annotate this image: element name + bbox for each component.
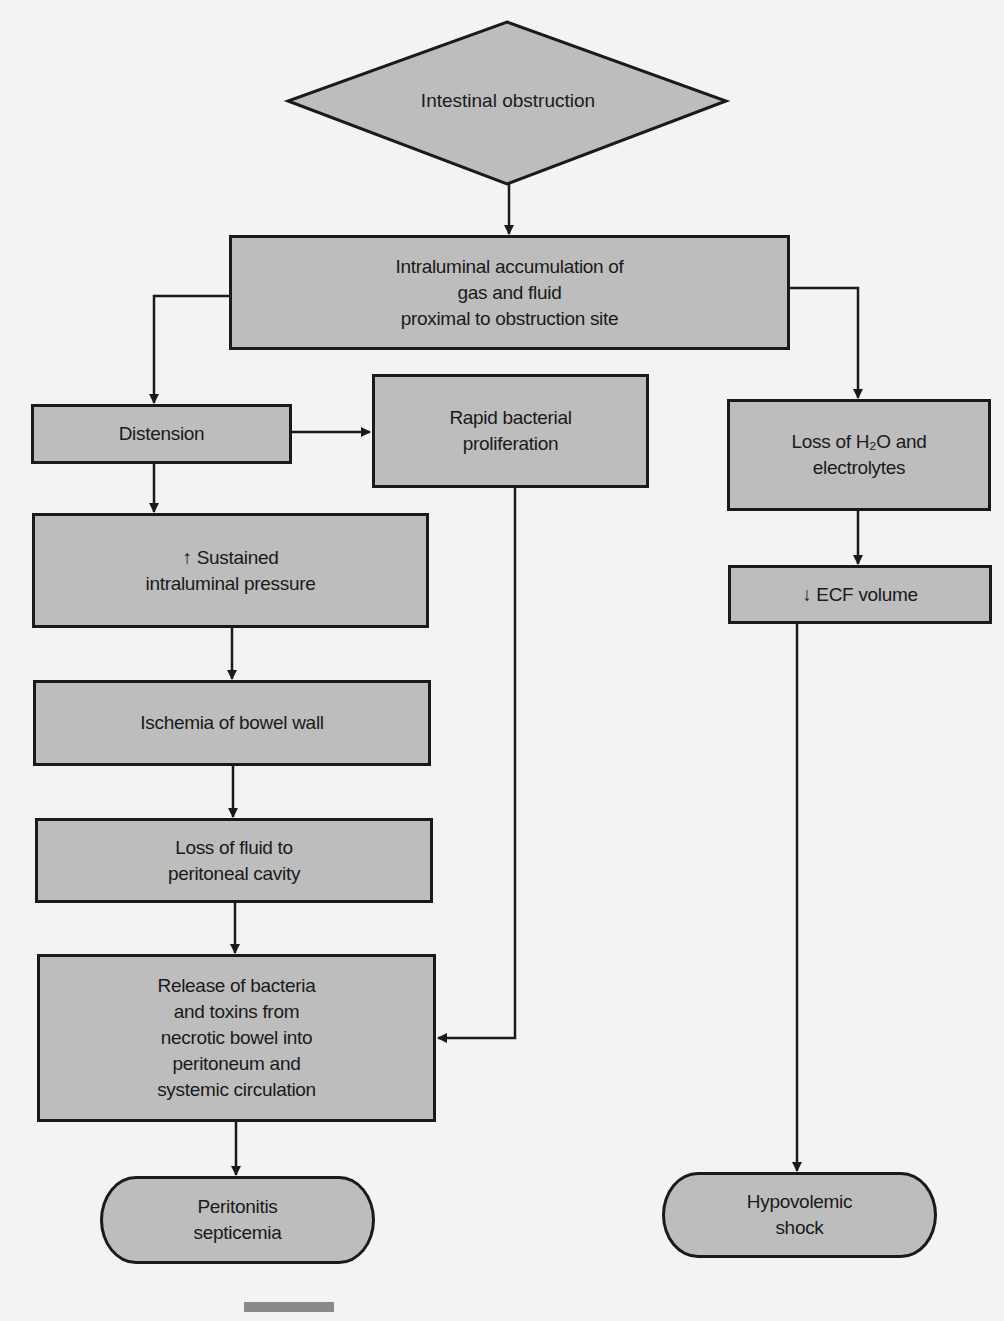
node-pressure-label: ↑ Sustained intraluminal pressure <box>145 545 315 597</box>
node-ischemia-label: Ischemia of bowel wall <box>140 710 323 736</box>
node-release-label: Release of bacteria and toxins from necr… <box>157 973 316 1103</box>
node-accumulation-label: Intraluminal accumulation of gas and flu… <box>395 254 623 332</box>
flowchart-connectors <box>0 0 1004 1321</box>
node-accumulation: Intraluminal accumulation of gas and flu… <box>229 235 790 350</box>
node-fluid-loss-label: Loss of fluid to peritoneal cavity <box>168 835 300 887</box>
start-label: Intestinal obstruction <box>338 90 678 112</box>
node-ecf: ↓ ECF volume <box>728 565 992 624</box>
node-h2o-loss: Loss of H₂O and electrolytes <box>727 399 991 511</box>
node-distension: Distension <box>31 404 292 464</box>
footer-bar <box>244 1302 334 1312</box>
outcome-shock: Hypovolemic shock <box>662 1172 937 1258</box>
node-ecf-label: ↓ ECF volume <box>802 582 918 608</box>
outcome-peritonitis-label: Peritonitis septicemia <box>194 1194 282 1246</box>
node-ischemia: Ischemia of bowel wall <box>33 680 431 766</box>
node-bacterial-label: Rapid bacterial proliferation <box>449 405 571 457</box>
node-pressure: ↑ Sustained intraluminal pressure <box>32 513 429 628</box>
outcome-shock-label: Hypovolemic shock <box>747 1189 852 1241</box>
outcome-peritonitis: Peritonitis septicemia <box>100 1176 375 1264</box>
node-release: Release of bacteria and toxins from necr… <box>37 954 436 1122</box>
node-h2o-loss-label: Loss of H₂O and electrolytes <box>792 429 927 481</box>
node-bacterial: Rapid bacterial proliferation <box>372 374 649 488</box>
node-distension-label: Distension <box>119 421 205 447</box>
node-fluid-loss: Loss of fluid to peritoneal cavity <box>35 818 433 903</box>
